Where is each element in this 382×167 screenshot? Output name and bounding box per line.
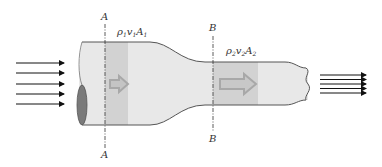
section-a-top-label: A: [101, 12, 108, 22]
section-b-top-label: B: [209, 23, 216, 33]
flow-quantity-1: ρ1v1A1: [117, 27, 147, 38]
section-a-bottom-label: A: [101, 150, 108, 160]
flow-quantity-2: ρ2v2A2: [226, 46, 256, 57]
inflow-arrows: [16, 63, 64, 104]
section-b-bottom-label: B: [209, 134, 216, 144]
outflow-arrows: [320, 75, 366, 93]
pipe-diagram: [0, 0, 382, 167]
inlet-end-cap: [77, 85, 87, 125]
